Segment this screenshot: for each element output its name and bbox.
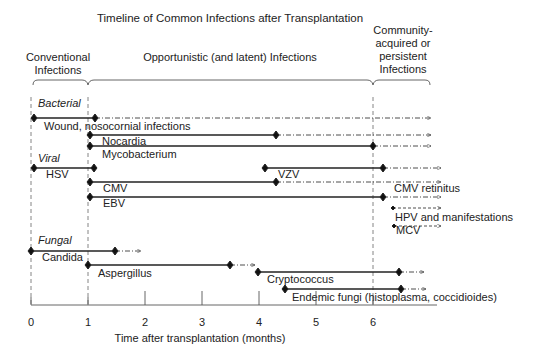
brace-conventional — [33, 80, 88, 85]
group-label-viral: Viral — [38, 152, 60, 164]
label-hsv: HSV — [46, 168, 69, 180]
period-headers: Conventional Infections Opportunistic (a… — [26, 24, 433, 76]
label-cmv-retinitus: CMV retinitus — [394, 182, 461, 194]
bar-cmv — [87, 178, 441, 186]
bar-hpv — [391, 206, 441, 210]
tick-5: 5 — [313, 316, 319, 328]
period-braces — [33, 80, 430, 85]
period-conventional-label-2: Infections — [34, 64, 82, 76]
chart-title: Timeline of Common Infections after Tran… — [97, 12, 363, 24]
label-nocardia: Nocardia — [102, 135, 147, 147]
x-tick-labels: 0 1 2 3 4 5 6 — [28, 316, 376, 328]
timeline-bars — [28, 114, 441, 293]
label-wound: Wound, nosocornial infections — [44, 120, 191, 132]
group-label-fungal: Fungal — [38, 234, 72, 246]
bar-labels: Wound, nosocornial infections Nocardia M… — [42, 120, 514, 303]
group-label-bacterial: Bacterial — [38, 97, 81, 109]
label-candida: Candida — [42, 251, 84, 263]
label-cmv: CMV — [103, 182, 128, 194]
bar-ebv — [87, 193, 441, 201]
period-community-label-4: Infections — [379, 63, 427, 75]
tick-2: 2 — [142, 316, 148, 328]
tick-0: 0 — [28, 316, 34, 328]
infection-timeline-chart: Timeline of Common Infections after Tran… — [0, 0, 536, 362]
tick-6: 6 — [370, 316, 376, 328]
label-mycobacterium: Mycobacterium — [102, 148, 177, 160]
period-community-label-2: acquired or — [375, 37, 430, 49]
label-ebv: EBV — [103, 197, 126, 209]
brace-community — [373, 80, 430, 85]
x-axis-label: Time after transplantation (months) — [115, 332, 286, 344]
label-vzv: VZV — [278, 168, 300, 180]
period-conventional-label: Conventional — [26, 51, 90, 63]
label-endemic-fungi: Endemic fungi (histoplasma, coccidioides… — [292, 291, 497, 303]
label-aspergillus: Aspergillus — [98, 267, 152, 279]
brace-opportunistic — [88, 80, 373, 85]
tick-4: 4 — [256, 316, 262, 328]
period-community-label-1: Community- — [373, 24, 433, 36]
label-hpv: HPV and manifestations — [395, 211, 514, 223]
period-community-label-3: persistent — [379, 50, 427, 62]
label-cryptococcus: Cryptococcus — [267, 273, 334, 285]
period-opportunistic-label: Opportunistic (and latent) Infections — [143, 51, 317, 63]
tick-3: 3 — [199, 316, 205, 328]
label-mcv: MCV — [396, 224, 421, 236]
tick-1: 1 — [85, 316, 91, 328]
